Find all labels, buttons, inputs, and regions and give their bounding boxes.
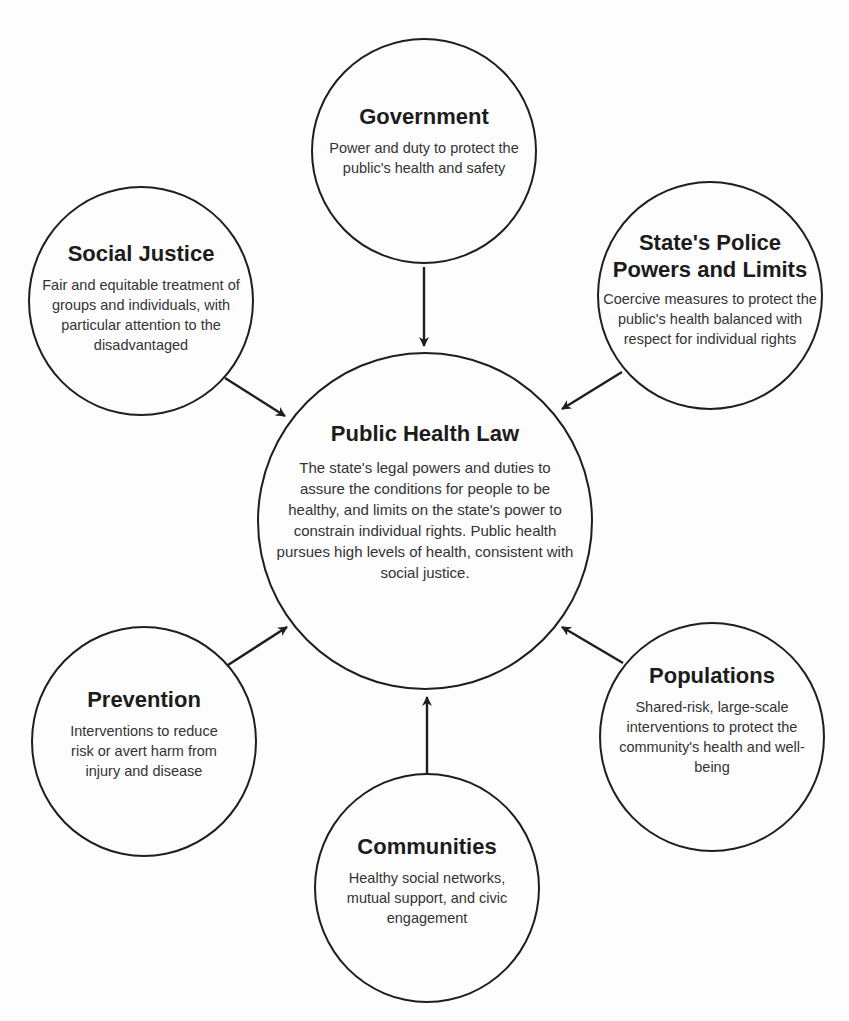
node-description: Power and duty to protect the public's h… [329, 138, 519, 178]
node-description: Healthy social networks, mutual support,… [337, 868, 517, 928]
node-title: State's Police Powers and Limits [599, 229, 821, 283]
node-title: Government [359, 103, 489, 130]
center-description: The state's legal powers and duties to a… [275, 457, 575, 583]
node-title: Populations [649, 662, 775, 689]
node-description: Coercive measures to protect the public'… [600, 289, 820, 349]
node-title: Social Justice [68, 240, 215, 267]
arrow-populations-to-center [562, 627, 623, 663]
node-social-justice: Social Justice Fair and equitable treatm… [28, 186, 254, 416]
arrow-prevention-to-center [228, 627, 287, 665]
node-title: Prevention [87, 686, 201, 713]
node-government: Government Power and duty to protect the… [311, 38, 537, 264]
arrow-police-powers-to-center [562, 372, 622, 409]
node-communities: Communities Healthy social networks, mut… [314, 773, 540, 1003]
center-title: Public Health Law [331, 420, 519, 447]
node-description: Interventions to reduce risk or avert ha… [59, 721, 229, 781]
node-public-health-law: Public Health Law The state's legal powe… [257, 352, 593, 690]
arrow-social-justice-to-center [225, 378, 285, 416]
node-populations: Populations Shared-risk, large-scale int… [599, 622, 825, 852]
node-prevention: Prevention Interventions to reduce risk … [31, 626, 257, 857]
node-description: Shared-risk, large-scale interventions t… [612, 697, 812, 777]
node-description: Fair and equitable treatment of groups a… [41, 275, 241, 355]
node-title: Communities [357, 833, 496, 860]
node-states-police-powers: State's Police Powers and Limits Coerciv… [597, 181, 823, 410]
